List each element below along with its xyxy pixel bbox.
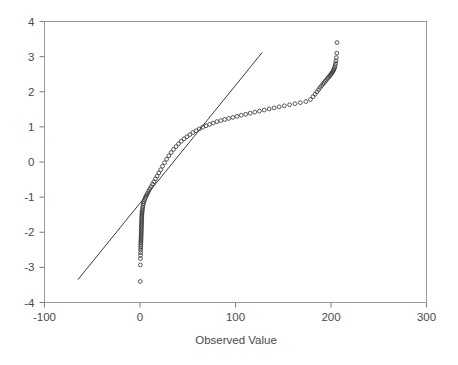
x-axis-tick-labels: -1000100200300 — [33, 311, 436, 323]
data-point-marker — [298, 101, 302, 105]
data-point-marker — [262, 108, 266, 112]
y-axis-ticks — [40, 22, 45, 303]
data-point-marker — [239, 113, 243, 117]
plot-frame — [45, 22, 427, 303]
data-point-marker — [253, 110, 257, 114]
data-point-marker — [165, 157, 169, 161]
plot-area-border — [45, 22, 427, 303]
data-point-marker — [248, 111, 252, 115]
normal-reference-line — [78, 52, 262, 279]
x-tick-label: 200 — [321, 311, 340, 323]
x-tick-label: -100 — [33, 311, 56, 323]
y-tick-label: 2 — [28, 86, 34, 98]
data-point-marker — [227, 117, 231, 121]
qq-plot-figure: -1000100200300 -4-3-2-101234 Observed Va… — [0, 0, 458, 365]
x-axis-title: Observed Value — [195, 334, 277, 346]
x-tick-label: 100 — [226, 311, 245, 323]
data-point-marker — [311, 95, 315, 99]
x-tick-label: 0 — [137, 311, 143, 323]
reference-line-segment — [78, 52, 262, 279]
y-tick-label: -2 — [24, 226, 34, 238]
data-point-marker — [219, 119, 223, 123]
data-point-marker — [138, 280, 142, 284]
data-point-marker — [223, 118, 227, 122]
y-axis-tick-labels: -4-3-2-101234 — [24, 16, 35, 309]
y-tick-label: -1 — [24, 191, 34, 203]
data-point-marker — [244, 112, 248, 116]
y-tick-label: 0 — [28, 156, 34, 168]
y-tick-label: -4 — [24, 297, 35, 309]
data-point-marker — [288, 103, 292, 107]
x-axis-ticks — [45, 303, 427, 308]
data-point-marker — [335, 41, 339, 45]
data-point-marker — [267, 107, 271, 111]
data-point-marker — [335, 51, 339, 55]
y-tick-label: 4 — [28, 16, 35, 28]
x-tick-label: 300 — [417, 311, 436, 323]
y-tick-label: 1 — [28, 121, 34, 133]
data-point-marker — [293, 102, 297, 106]
data-point-marker — [272, 106, 276, 110]
data-point-marker — [138, 263, 142, 267]
data-point-marker — [258, 109, 262, 113]
data-point-marker — [215, 120, 219, 124]
data-point-marker — [211, 121, 215, 125]
data-point-marker — [282, 104, 286, 108]
data-point-marker — [304, 100, 308, 104]
data-point-marker — [235, 114, 239, 118]
data-point-series — [138, 41, 339, 284]
chart-canvas: -1000100200300 -4-3-2-101234 Observed Va… — [0, 0, 458, 365]
data-point-marker — [277, 105, 281, 109]
y-tick-label: 3 — [28, 51, 34, 63]
data-point-marker — [231, 115, 235, 119]
y-tick-label: -3 — [24, 261, 34, 273]
